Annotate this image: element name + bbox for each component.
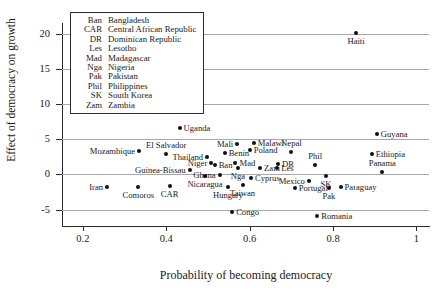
y-tick-label: 15 [22, 64, 50, 74]
data-point-label: Poland [254, 146, 278, 155]
data-point-label: Haiti [347, 37, 364, 46]
x-axis-line [62, 226, 430, 227]
data-point-label: Uganda [184, 124, 211, 133]
data-point [236, 166, 240, 170]
data-point-label: CAR [161, 190, 179, 199]
data-point [137, 149, 141, 153]
data-point-label: Iran [89, 183, 103, 192]
data-point [233, 161, 237, 165]
data-point [136, 185, 140, 189]
data-point [230, 210, 234, 214]
data-point [289, 150, 293, 154]
scatter-chart-figure: Effect of democracy on growth Probabilit… [0, 0, 447, 295]
data-point-label: Comoros [123, 191, 155, 200]
legend-full-name: Zambia [108, 101, 135, 110]
data-point-label: Phil [308, 152, 322, 161]
data-point-label: Nepal [281, 139, 302, 148]
data-point-label: Nga [231, 172, 245, 181]
data-point [241, 183, 245, 187]
data-point [324, 174, 328, 178]
x-tick-mark [250, 226, 251, 231]
data-point-label: Cyprus [255, 174, 280, 183]
gridline-y [62, 174, 429, 175]
data-point-label: Romania [321, 212, 352, 221]
data-point-label: Hungary [213, 191, 243, 200]
y-tick-label: 10 [22, 99, 50, 109]
x-tick-label: 0.4 [146, 233, 186, 244]
legend-row: ZamZambia [75, 101, 196, 110]
data-point-label: Pak [322, 192, 335, 201]
x-tick-mark [333, 226, 334, 231]
x-tick-mark [166, 226, 167, 231]
data-point [339, 185, 343, 189]
data-point [178, 126, 182, 130]
x-tick-mark [83, 226, 84, 231]
x-tick-mark [416, 226, 417, 231]
y-tick-label: 20 [22, 29, 50, 39]
data-point [235, 142, 239, 146]
data-point [248, 148, 252, 152]
data-point-label: Mozambique [90, 146, 135, 155]
data-point [315, 214, 319, 218]
y-tick-label: -5 [22, 205, 50, 215]
y-tick-label: 0 [22, 169, 50, 179]
data-point [370, 152, 374, 156]
data-point-label: Mad [239, 158, 255, 167]
legend-abbreviation: Zam [75, 101, 108, 110]
abbreviation-legend: BanBangladeshCARCentral African Republic… [70, 12, 204, 114]
data-point [105, 185, 109, 189]
x-axis-title: Probability of becoming democracy [62, 268, 430, 283]
data-point-label: Les [281, 164, 293, 173]
x-tick-label: 0.8 [313, 233, 353, 244]
data-point [293, 186, 297, 190]
data-point [213, 163, 217, 167]
x-tick-label: 0.6 [230, 233, 270, 244]
gridline-y [62, 139, 429, 140]
data-point-label: Paraguay [345, 183, 377, 192]
data-point [327, 186, 331, 190]
data-point [188, 168, 192, 172]
data-point [226, 185, 230, 189]
y-tick-label: 5 [22, 134, 50, 144]
data-point-label: Niger [188, 159, 208, 168]
data-point [249, 176, 253, 180]
y-axis-title: Effect of democracy on growth [5, 0, 17, 190]
data-point-label: El Salvador [146, 141, 186, 150]
data-point-label: Guyana [381, 129, 408, 138]
data-point-label: Congo [236, 208, 259, 217]
data-point-label: Nicaragua [187, 180, 222, 189]
data-point [258, 166, 262, 170]
data-point [164, 152, 168, 156]
data-point [168, 184, 172, 188]
data-point-label: Ban [219, 161, 233, 170]
data-point [375, 132, 379, 136]
x-tick-label: 0.2 [63, 233, 103, 244]
data-point-label: Panama [369, 159, 396, 168]
data-point-label: Guinea-Bissau [135, 166, 186, 175]
data-point [223, 151, 227, 155]
x-tick-label: 1 [396, 233, 436, 244]
data-point [354, 31, 358, 35]
data-point [218, 173, 222, 177]
data-point-label: Benin [229, 148, 250, 157]
data-point [313, 163, 317, 167]
